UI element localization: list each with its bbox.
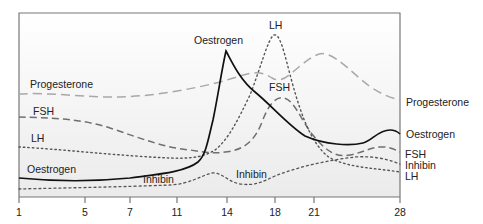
label-oestrogen-right: Oestrogen [406, 129, 455, 140]
hormone-cycle-chart: Progesterone FSH LH Oestrogen Inhibin Oe… [0, 0, 483, 224]
label-oestrogen-left: Oestrogen [27, 164, 76, 175]
label-lh-right: LH [405, 171, 418, 182]
x-tick-label: 18 [269, 207, 281, 218]
label-oestrogen-peak: Oestrogen [194, 35, 243, 46]
label-fsh-peak: FSH [269, 82, 290, 93]
label-lh-left: LH [31, 133, 44, 144]
x-axis-ticks [19, 197, 400, 203]
label-progesterone-right: Progesterone [406, 97, 469, 108]
x-tick-label: 11 [172, 207, 183, 218]
x-tick-label: 14 [221, 207, 233, 218]
label-inhibin-right: Inhibin [405, 160, 436, 171]
x-tick-label: 28 [394, 207, 406, 218]
label-inhibin-mid: Inhibin [143, 174, 174, 185]
label-fsh-right: FSH [405, 149, 426, 160]
x-tick-label: 21 [308, 207, 320, 218]
label-fsh-left: FSH [33, 106, 54, 117]
label-progesterone-left: Progesterone [30, 79, 93, 90]
label-inhibin-peak: Inhibin [236, 169, 267, 180]
x-tick-label: 1 [16, 207, 22, 218]
label-lh-peak: LH [269, 20, 282, 31]
x-tick-label: 5 [82, 207, 88, 218]
x-tick-label: 7 [127, 207, 133, 218]
